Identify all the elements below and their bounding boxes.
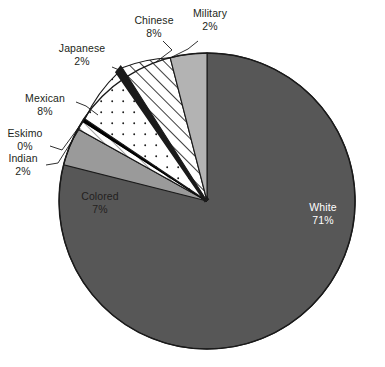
slice-label-colored-percent: 7% bbox=[69, 203, 131, 216]
slice-label-military-name: Military bbox=[181, 7, 239, 20]
slice-label-japanese: Japanese 2% bbox=[49, 42, 115, 67]
slice-label-colored-name: Colored bbox=[69, 190, 131, 203]
slice-label-indian-name: Indian bbox=[0, 152, 46, 165]
slice-label-white: White 71% bbox=[297, 201, 349, 226]
slice-label-military-percent: 2% bbox=[181, 20, 239, 33]
slice-label-eskimo: Eskimo 0% bbox=[0, 127, 50, 152]
slice-label-indian-percent: 2% bbox=[0, 165, 46, 178]
slice-label-mexican-name: Mexican bbox=[14, 92, 76, 105]
slice-label-indian: Indian 2% bbox=[0, 152, 46, 177]
slice-label-chinese-name: Chinese bbox=[123, 14, 185, 27]
slice-label-white-percent: 71% bbox=[297, 214, 349, 227]
slice-label-chinese: Chinese 8% bbox=[123, 14, 185, 39]
slice-label-eskimo-percent: 0% bbox=[0, 140, 50, 153]
slice-label-white-name: White bbox=[297, 201, 349, 214]
slice-label-eskimo-name: Eskimo bbox=[0, 127, 50, 140]
slice-label-chinese-percent: 8% bbox=[123, 27, 185, 40]
slice-label-colored: Colored 7% bbox=[69, 190, 131, 215]
slice-label-japanese-percent: 2% bbox=[49, 55, 115, 68]
slice-label-mexican-percent: 8% bbox=[14, 105, 76, 118]
slice-label-mexican: Mexican 8% bbox=[14, 92, 76, 117]
slice-label-military: Military 2% bbox=[181, 7, 239, 32]
pie-chart: Chinese 8% Military 2% Japanese 2% Mexic… bbox=[0, 0, 385, 367]
slice-label-japanese-name: Japanese bbox=[49, 42, 115, 55]
